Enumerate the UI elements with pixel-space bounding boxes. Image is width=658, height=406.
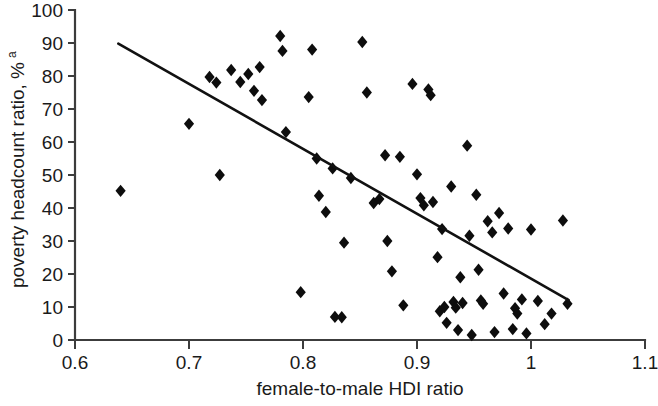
y-axis-title-group: poverty headcount ratio, % a: [5, 51, 28, 288]
data-point: [235, 76, 245, 88]
y-axis-title: poverty headcount ratio, %: [7, 62, 28, 288]
data-point: [517, 293, 527, 305]
data-point: [339, 236, 349, 248]
data-point: [526, 223, 536, 235]
data-point: [432, 251, 442, 263]
y-axis-tick-labels: 0102030405060708090100: [31, 0, 63, 351]
y-tick-label: 80: [42, 66, 63, 87]
data-point: [255, 61, 265, 73]
data-point: [533, 295, 543, 307]
data-point: [487, 226, 497, 238]
x-tick-label: 1: [526, 352, 537, 373]
x-axis-tick-marks: [75, 340, 645, 349]
data-point: [412, 168, 422, 180]
data-point: [314, 190, 324, 202]
data-point: [249, 85, 259, 97]
data-point: [464, 230, 474, 242]
data-point: [428, 196, 438, 208]
data-point: [296, 286, 306, 298]
y-tick-label: 60: [42, 132, 63, 153]
y-tick-label: 50: [42, 165, 63, 186]
data-point: [380, 149, 390, 161]
scatter-plot-figure: 0102030405060708090100 0.60.70.80.911.1 …: [0, 0, 658, 406]
data-point: [398, 299, 408, 311]
y-tick-label: 20: [42, 264, 63, 285]
data-point: [275, 30, 285, 42]
data-point: [508, 323, 518, 335]
x-tick-label: 0.8: [290, 352, 316, 373]
x-axis-title: female-to-male HDI ratio: [257, 378, 464, 399]
y-tick-label: 10: [42, 297, 63, 318]
data-point: [473, 264, 483, 276]
data-point: [442, 317, 452, 329]
data-point: [184, 118, 194, 130]
data-point: [499, 287, 509, 299]
data-point: [494, 207, 504, 219]
data-point: [540, 318, 550, 330]
trend-line: [118, 44, 568, 300]
data-point: [116, 185, 126, 197]
data-point: [307, 43, 317, 55]
data-point: [407, 78, 417, 90]
data-point: [446, 180, 456, 192]
data-point: [471, 189, 481, 201]
data-point: [304, 91, 314, 103]
y-tick-label: 90: [42, 33, 63, 54]
x-tick-label: 0.7: [176, 352, 202, 373]
data-point: [462, 139, 472, 151]
x-tick-label: 1.1: [632, 352, 658, 373]
data-point: [362, 86, 372, 98]
data-point: [395, 151, 405, 163]
data-point: [558, 214, 568, 226]
data-point: [483, 215, 493, 227]
x-tick-label: 0.9: [404, 352, 430, 373]
data-point: [243, 68, 253, 80]
data-point: [357, 36, 367, 48]
data-point-group: [116, 30, 573, 341]
x-axis-tick-labels: 0.60.70.80.911.1: [62, 352, 658, 373]
y-tick-label: 30: [42, 231, 63, 252]
chart-canvas: 0102030405060708090100 0.60.70.80.911.1 …: [0, 0, 658, 406]
data-point: [321, 206, 331, 218]
data-point: [546, 307, 556, 319]
y-tick-label: 0: [52, 330, 63, 351]
data-point: [521, 327, 531, 339]
y-tick-label: 70: [42, 99, 63, 120]
data-point: [455, 271, 465, 283]
data-point: [257, 94, 267, 106]
data-point: [387, 265, 397, 277]
data-point: [453, 324, 463, 336]
data-point: [337, 311, 347, 323]
data-point: [277, 45, 287, 57]
data-point: [503, 222, 513, 234]
data-point: [215, 169, 225, 181]
data-point: [382, 235, 392, 247]
y-tick-label: 100: [31, 0, 63, 21]
data-point: [489, 326, 499, 338]
x-tick-label: 0.6: [62, 352, 88, 373]
y-tick-label: 40: [42, 198, 63, 219]
y-axis-title-superscript: a: [5, 51, 19, 58]
data-point: [226, 64, 236, 76]
